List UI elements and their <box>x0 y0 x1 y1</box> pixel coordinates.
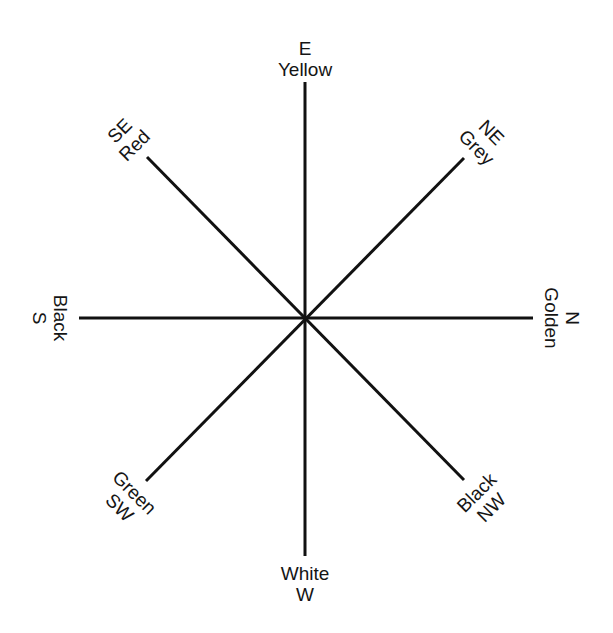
label-s: Black S <box>29 295 71 341</box>
compass-lines <box>0 0 613 633</box>
label-n: N Golden <box>541 287 583 348</box>
color-w: White <box>281 563 330 584</box>
direction-s: S <box>29 295 50 341</box>
color-s: Black <box>50 295 71 341</box>
color-e: Yellow <box>278 59 332 80</box>
direction-e: E <box>278 38 332 59</box>
direction-w: W <box>281 584 330 605</box>
direction-n: N <box>562 287 583 348</box>
color-n: Golden <box>541 287 562 348</box>
label-e: E Yellow <box>278 38 332 80</box>
label-w: White W <box>281 563 330 605</box>
